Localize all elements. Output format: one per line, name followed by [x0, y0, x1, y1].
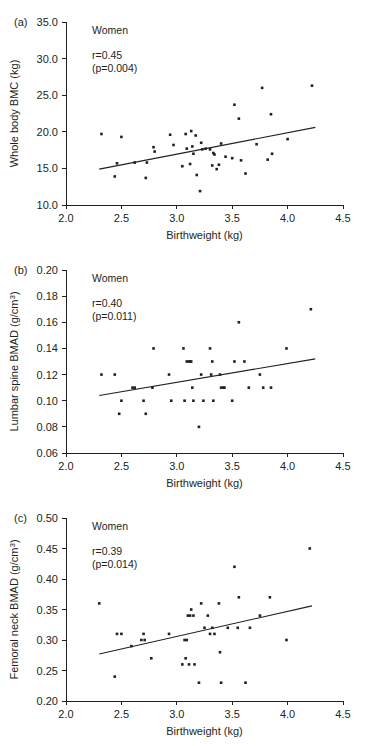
data-point — [120, 136, 123, 139]
data-point — [191, 386, 194, 389]
panel-b-plot: (b)0.060.080.100.120.140.160.180.202.02.… — [0, 248, 369, 496]
data-point — [146, 161, 149, 164]
data-point — [210, 373, 213, 376]
y-tick-label-b: 0.08 — [37, 421, 58, 433]
data-point — [190, 130, 193, 133]
data-point — [269, 596, 272, 599]
data-point — [233, 566, 236, 569]
data-point — [270, 386, 273, 389]
annotation-r-c: r=0.39 — [92, 545, 122, 557]
y-axis-title-b: Lumbar spine BMAD (g/cm3) — [8, 291, 21, 431]
x-tick-label-a: 3.5 — [225, 212, 240, 224]
data-point — [255, 143, 258, 146]
data-point — [170, 399, 173, 402]
annotation-p-a: (p=0.004) — [92, 62, 137, 74]
x-tick-label-a: 2.0 — [58, 212, 73, 224]
data-point — [194, 134, 197, 137]
data-point — [131, 386, 134, 389]
data-point — [153, 150, 156, 153]
y-tick-label-c: 0.35 — [37, 604, 58, 616]
data-point — [285, 347, 288, 350]
data-point — [133, 386, 136, 389]
data-point — [209, 633, 212, 636]
y-tick-label-c: 0.25 — [37, 665, 58, 677]
annotation-r-b: r=0.40 — [92, 297, 122, 309]
annotation-group-a: Women — [92, 24, 128, 36]
x-tick-label-b: 2.5 — [114, 460, 129, 472]
data-point — [184, 657, 187, 660]
data-point — [100, 373, 103, 376]
data-point — [270, 113, 273, 116]
data-point — [192, 152, 195, 155]
y-tick-label-b: 0.12 — [37, 369, 58, 381]
data-point — [144, 177, 147, 180]
data-point — [189, 614, 192, 617]
data-point — [220, 681, 223, 684]
data-point — [243, 360, 246, 363]
data-point — [248, 386, 251, 389]
data-point — [172, 144, 175, 147]
data-point — [201, 148, 204, 151]
data-points-b — [100, 308, 312, 428]
data-point — [183, 399, 186, 402]
annotation-p-c: (p=0.014) — [92, 558, 137, 570]
data-point — [207, 614, 210, 617]
x-tick-label-a: 4.5 — [335, 212, 350, 224]
y-tick-label-c: 0.40 — [37, 573, 58, 585]
data-point — [226, 627, 229, 630]
x-tick-label-c: 3.5 — [225, 708, 240, 720]
panel-c: (c)0.200.250.300.350.400.450.502.02.53.0… — [0, 496, 369, 746]
panel-letter-c: (c) — [14, 512, 27, 524]
data-point — [238, 321, 241, 324]
data-point — [223, 386, 226, 389]
data-point — [187, 614, 190, 617]
data-point — [198, 681, 201, 684]
y-tick-label-a: 20.0 — [37, 126, 58, 138]
data-point — [140, 639, 143, 642]
data-point — [233, 103, 236, 106]
data-point — [233, 360, 236, 363]
data-point — [113, 675, 116, 678]
x-tick-label-a: 2.5 — [114, 212, 129, 224]
y-tick-label-b: 0.06 — [37, 447, 58, 459]
regression-line-a — [99, 127, 315, 169]
data-point — [192, 399, 195, 402]
y-tick-label-a: 25.0 — [37, 89, 58, 101]
data-point — [259, 614, 262, 617]
x-tick-label-a: 4.0 — [280, 212, 295, 224]
data-point — [244, 172, 247, 175]
data-point — [168, 373, 171, 376]
annotation-group-b: Women — [92, 272, 128, 284]
data-point — [113, 373, 116, 376]
data-point — [285, 639, 288, 642]
x-tick-label-b: 3.5 — [225, 460, 240, 472]
panel-a: (a)10.015.020.025.030.035.02.02.53.03.54… — [0, 0, 369, 248]
data-point — [213, 633, 216, 636]
data-point — [191, 145, 194, 148]
x-tick-label-c: 4.5 — [335, 708, 350, 720]
data-point — [151, 386, 154, 389]
data-point — [212, 399, 215, 402]
data-point — [143, 639, 146, 642]
y-tick-label-a: 10.0 — [37, 199, 58, 211]
x-axis-title-b: Birthweight (kg) — [166, 477, 242, 489]
data-point — [261, 87, 264, 90]
data-point — [218, 163, 221, 166]
panel-a-plot: (a)10.015.020.025.030.035.02.02.53.03.54… — [0, 0, 369, 248]
data-point — [215, 168, 218, 171]
data-point — [189, 163, 192, 166]
data-point — [192, 614, 195, 617]
data-point — [310, 308, 313, 311]
data-point — [200, 141, 203, 144]
data-point — [150, 657, 153, 660]
data-point — [213, 153, 216, 156]
data-point — [238, 596, 241, 599]
data-point — [286, 138, 289, 141]
data-point — [249, 627, 252, 630]
data-point — [308, 547, 311, 550]
data-point — [218, 602, 221, 605]
x-tick-label-b: 2.0 — [58, 460, 73, 472]
annotation-p-b: (p=0.011) — [92, 310, 136, 322]
data-point — [244, 681, 247, 684]
data-point — [181, 663, 184, 666]
